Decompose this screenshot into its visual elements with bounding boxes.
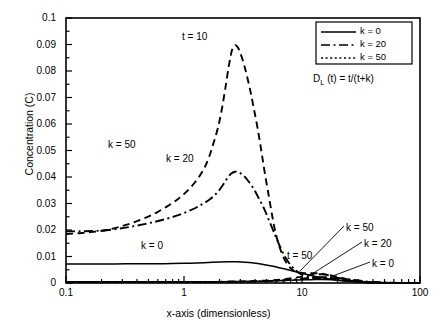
y-tick-label: 0.07 — [0, 92, 56, 103]
y-tick-label: 0.09 — [0, 39, 56, 50]
chart-figure: Concentration (C) x-axis (dimensionless)… — [0, 0, 437, 328]
x-tick-label: 0.1 — [46, 287, 86, 298]
annotation-k-0-inline: k = 0 — [141, 240, 163, 251]
equation-label: DL (t) = t/(t+k) — [313, 73, 374, 87]
annotation-t-10: t = 10 — [182, 31, 207, 42]
y-tick-label: 0.03 — [0, 198, 56, 209]
annotation-k-50-inline: k = 50 — [108, 139, 136, 150]
x-tick-label: 1 — [164, 287, 204, 298]
series-t-50-k-50 — [66, 274, 420, 283]
y-tick-label: 0.08 — [0, 65, 56, 76]
legend-item-k-50[interactable]: k = 50 — [360, 51, 386, 62]
series-t-10-k-0 — [66, 262, 420, 283]
chart-plot-area — [0, 0, 437, 328]
annotation-t-50: t = 50 — [287, 250, 312, 261]
y-tick-label: 0.1 — [0, 12, 56, 23]
x-axis-title: x-axis (dimensionless) — [0, 307, 437, 319]
equation-rest: (t) = t/(t+k) — [324, 73, 373, 84]
y-tick-label: 0.01 — [0, 251, 56, 262]
y-tick-label: 0.04 — [0, 171, 56, 182]
x-tick-label: 10 — [282, 287, 322, 298]
leader-line-1 — [312, 242, 362, 274]
annotation-k-20-inline: k = 20 — [166, 153, 194, 164]
leader-line-2 — [330, 262, 370, 277]
annotation-k-0-right: k = 0 — [372, 258, 394, 269]
y-tick-label: 0.02 — [0, 224, 56, 235]
y-tick-label: 0.05 — [0, 145, 56, 156]
leader-line-0 — [300, 226, 344, 271]
y-tick-label: 0.06 — [0, 118, 56, 129]
annotation-k-50-right: k = 50 — [346, 222, 374, 233]
annotation-k-20-right: k = 20 — [364, 238, 392, 249]
legend-item-k-20[interactable]: k = 20 — [360, 38, 386, 49]
x-tick-label: 100 — [400, 287, 437, 298]
legend-item-k-0[interactable]: k = 0 — [360, 25, 381, 36]
